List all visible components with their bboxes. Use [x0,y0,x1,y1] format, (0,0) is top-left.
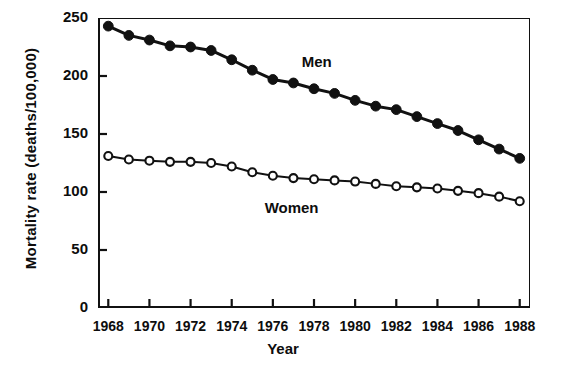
x-tick-label: 1978 [291,318,337,334]
y-tick-label: 250 [30,8,88,25]
x-tick-label: 1988 [497,318,543,334]
x-tick-label: 1970 [126,318,172,334]
x-tick-label: 1972 [168,318,214,334]
x-tick-label: 1984 [414,318,460,334]
x-tick-label: 1986 [456,318,502,334]
series-label-women: Women [265,199,319,216]
x-tick-label: 1976 [250,318,296,334]
x-tick-label: 1982 [373,318,419,334]
y-tick-label: 150 [30,124,88,141]
y-tick-label: 50 [30,240,88,257]
chart-figure: Mortality rate (deaths/100,000) Year 050… [0,0,566,373]
x-tick-label: 1968 [85,318,131,334]
y-axis-title: Mortality rate (deaths/100,000) [22,9,39,309]
x-tick-label: 1980 [332,318,378,334]
x-axis-title: Year [0,340,566,357]
y-tick-label: 100 [30,182,88,199]
y-tick-label: 0 [30,298,88,315]
series-label-men: Men [302,53,332,70]
x-tick-label: 1974 [209,318,255,334]
y-tick-label: 200 [30,66,88,83]
